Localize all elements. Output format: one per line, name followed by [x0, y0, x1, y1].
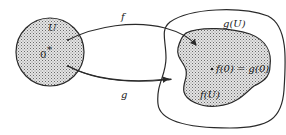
origin-label: 0	[40, 49, 46, 60]
map-f: f	[67, 11, 196, 45]
g-u-label: g(U)	[223, 18, 246, 29]
map-g: g	[67, 65, 171, 100]
domain-set-u: U 0 *	[16, 18, 84, 86]
image-point: f(0) = g(0)	[211, 63, 269, 74]
point-label: f(0) = g(0)	[215, 63, 269, 74]
map-f-label: f	[120, 11, 127, 22]
mapping-diagram: U 0 * g(U) f(U) f(0) = g(0) f g	[0, 0, 286, 135]
map-g-label: g	[121, 89, 127, 100]
domain-set-label: U	[48, 22, 57, 33]
f-u-label: f(U)	[199, 89, 220, 100]
origin-mark: *	[47, 44, 52, 55]
point-dot	[211, 68, 213, 70]
